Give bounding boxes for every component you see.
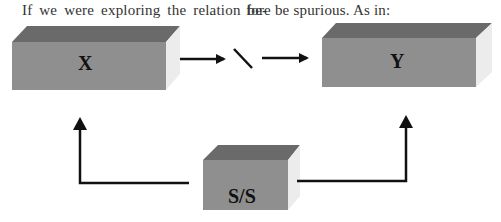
arrow-ss-to-y-line (297, 126, 406, 181)
broken-link-slash-icon (234, 49, 252, 68)
box-x-top-face (12, 26, 180, 42)
box-y-top-face (322, 23, 492, 38)
box-x-label: X (78, 52, 93, 74)
arrow-ss-to-x-head-icon (73, 117, 87, 130)
box-ss-label: S/S (228, 185, 256, 207)
arrow-ss-to-y-head-icon (399, 115, 413, 128)
arrow-ss-to-x-line (80, 128, 189, 183)
box-ss: S/S (203, 145, 300, 210)
box-x: X (12, 26, 180, 90)
box-ss-top-face (203, 145, 300, 160)
box-y: Y (322, 23, 492, 87)
causal-diagram: X Y S/S (0, 0, 501, 222)
box-y-label: Y (390, 50, 405, 72)
